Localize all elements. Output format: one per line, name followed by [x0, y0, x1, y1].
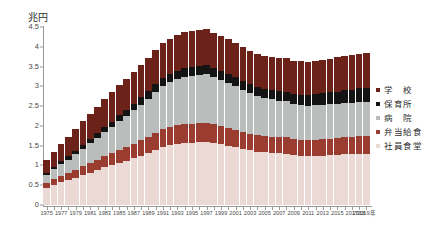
- bar-column: [327, 27, 334, 205]
- bar-segment: [109, 165, 116, 205]
- bar-segment: [240, 132, 247, 149]
- bar-segment: [196, 142, 203, 205]
- legend-item[interactable]: 学 校: [376, 86, 422, 95]
- bar-segment: [276, 58, 283, 91]
- bar-segment: [225, 39, 232, 73]
- bar-segment: [101, 167, 108, 205]
- bar-segment: [196, 75, 203, 123]
- bar-segment: [319, 60, 326, 94]
- bar-segment: [327, 59, 334, 93]
- bar-segment: [305, 62, 312, 95]
- bar-column: [225, 27, 232, 205]
- bar-segment: [290, 61, 297, 94]
- bar-column: [43, 27, 50, 205]
- bar-segment: [247, 93, 254, 133]
- bar-column: [167, 27, 174, 205]
- bar-column: [218, 27, 225, 205]
- bar-segment: [94, 160, 101, 171]
- bar-column: [312, 27, 319, 205]
- x-axis-tick-label: 1981: [84, 211, 96, 217]
- bar-segment: [232, 130, 239, 147]
- bar-segment: [225, 74, 232, 83]
- bar-segment: [145, 91, 152, 99]
- bar-column: [356, 27, 363, 205]
- bar-segment: [290, 104, 297, 139]
- bar-segment: [152, 50, 159, 84]
- bar-column: [58, 27, 65, 205]
- bar-segment: [160, 129, 167, 147]
- bar-segment: [225, 146, 232, 205]
- bar-segment: [218, 144, 225, 205]
- bar-segment: [356, 54, 363, 88]
- chart-legend: 学 校保育所病 院弁当給食社員食堂: [376, 86, 422, 151]
- bar-column: [298, 27, 305, 205]
- x-axis-tick-label: 2019年: [357, 211, 375, 217]
- bar-column: [203, 27, 210, 205]
- legend-item-label: 保育所: [384, 100, 413, 109]
- bar-segment: [189, 31, 196, 67]
- bar-segment: [269, 153, 276, 205]
- bar-segment: [363, 102, 370, 136]
- legend-swatch-icon: [376, 88, 380, 92]
- bar-segment: [131, 104, 138, 111]
- bar-segment: [138, 140, 145, 155]
- bar-segment: [261, 89, 268, 98]
- bar-segment: [51, 185, 58, 205]
- bar-segment: [160, 78, 167, 86]
- bar-segment: [116, 85, 123, 115]
- bar-segment: [58, 144, 65, 161]
- legend-item[interactable]: 保育所: [376, 100, 422, 109]
- bar-segment: [80, 149, 87, 166]
- bar-column: [72, 27, 79, 205]
- bar-segment: [80, 121, 87, 145]
- bar-segment: [87, 114, 94, 139]
- bar-segment: [160, 43, 167, 78]
- bar-segment: [349, 90, 356, 103]
- bar-segment: [305, 106, 312, 140]
- bar-segment: [80, 175, 87, 205]
- bar-segment: [298, 156, 305, 205]
- bar-segment: [312, 140, 319, 156]
- bar-segment: [123, 161, 130, 205]
- bar-segment: [138, 97, 145, 104]
- bar-column: [94, 27, 101, 205]
- bar-segment: [116, 163, 123, 205]
- x-axis-tick-label: 2013: [317, 211, 329, 217]
- bar-segment: [152, 92, 159, 132]
- bar-segment: [109, 153, 116, 165]
- bar-segment: [174, 125, 181, 144]
- bar-segment: [189, 143, 196, 205]
- bar-segment: [334, 155, 341, 205]
- bar-column: [145, 27, 152, 205]
- bar-segment: [196, 30, 203, 66]
- bar-segment: [312, 61, 319, 94]
- bar-segment: [203, 74, 210, 122]
- bar-segment: [152, 150, 159, 205]
- bar-segment: [312, 105, 319, 139]
- bar-segment: [174, 71, 181, 80]
- bar-segment: [283, 154, 290, 205]
- bar-column: [319, 27, 326, 205]
- legend-item-label: 社員食堂: [384, 142, 422, 151]
- bar-segment: [327, 104, 334, 138]
- legend-item[interactable]: 病 院: [376, 114, 422, 123]
- bar-segment: [145, 58, 152, 91]
- bar-segment: [43, 175, 50, 184]
- x-axis-tick-label: 1991: [157, 211, 169, 217]
- bar-segment: [138, 156, 145, 205]
- bar-segment: [58, 176, 65, 183]
- bar-column: [247, 27, 254, 205]
- bar-column: [116, 27, 123, 205]
- bar-segment: [319, 156, 326, 205]
- bar-column: [196, 27, 203, 205]
- legend-item[interactable]: 弁当給食: [376, 128, 422, 137]
- bar-segment: [283, 137, 290, 153]
- bar-column: [261, 27, 268, 205]
- legend-swatch-icon: [376, 116, 380, 120]
- legend-item[interactable]: 社員食堂: [376, 142, 422, 151]
- bar-segment: [65, 160, 72, 173]
- bar-segment: [72, 154, 79, 169]
- bar-segment: [87, 143, 94, 162]
- bar-segment: [189, 124, 196, 143]
- bar-segment: [203, 142, 210, 205]
